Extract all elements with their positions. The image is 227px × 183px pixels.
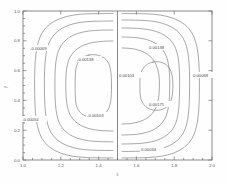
svg-text:-0.00069: -0.00069 — [30, 46, 47, 51]
contour-line — [122, 48, 159, 124]
x-tick-label: 1.4 — [96, 163, 103, 168]
contour-line — [122, 37, 170, 135]
contour-label: -0.00069 — [29, 45, 55, 51]
x-tick-label: 1.0 — [20, 163, 27, 168]
y-tick-label: 0.6 — [14, 68, 21, 73]
svg-text:0.00138: 0.00138 — [149, 45, 165, 50]
x-axis-label: x — [116, 172, 119, 177]
contour-line — [75, 55, 111, 118]
contour-plot-figure: -0.00069 -0.00138 -0.00103 -0.00034 0.00… — [0, 0, 227, 183]
svg-text:0.00034: 0.00034 — [141, 147, 157, 152]
x-tick-label: 1.8 — [171, 163, 178, 168]
svg-text:-0.00034: -0.00034 — [22, 117, 39, 122]
contour-plot-svg: -0.00069 -0.00138 -0.00103 -0.00034 0.00… — [0, 0, 227, 183]
y-tick-label: 0.0 — [14, 158, 21, 163]
y-tick-label: 0.8 — [14, 38, 21, 43]
y-tick-label: 0.2 — [14, 128, 21, 133]
svg-text:0.00069: 0.00069 — [193, 73, 209, 78]
contour-line — [122, 14, 199, 158]
contour-lines-right-lobe — [122, 14, 199, 158]
contour-label: -0.00034 — [21, 116, 47, 122]
y-axis-ticks: 0.0 0.2 0.4 0.6 0.8 1.0 — [14, 9, 212, 163]
svg-text:-0.00103: -0.00103 — [87, 113, 104, 118]
contour-label: 0.00103 — [118, 72, 142, 78]
y-tick-label: 0.4 — [14, 98, 21, 103]
contour-label: -0.00103 — [86, 112, 112, 118]
contour-label: 0.00171 — [148, 101, 172, 107]
svg-text:0.00171: 0.00171 — [149, 102, 165, 107]
contour-label: 0.00069 — [192, 72, 216, 78]
svg-text:0.00103: 0.00103 — [119, 73, 135, 78]
y-tick-label: 1.0 — [14, 9, 21, 14]
contour-lines-left-lobe — [35, 14, 113, 158]
contour-label: 0.00034 — [140, 146, 164, 152]
contour-line — [55, 30, 113, 142]
contour-label: -0.00138 — [76, 56, 102, 62]
y-axis-label: y — [3, 85, 8, 88]
x-tick-label: 1.6 — [133, 163, 140, 168]
svg-text:-0.00138: -0.00138 — [77, 57, 94, 62]
x-tick-label: 2.0 — [209, 163, 216, 168]
contour-label-group: -0.00069 -0.00138 -0.00103 -0.00034 0.00… — [21, 44, 216, 152]
x-tick-label: 1.2 — [58, 163, 65, 168]
contour-label: 0.00138 — [148, 44, 172, 50]
